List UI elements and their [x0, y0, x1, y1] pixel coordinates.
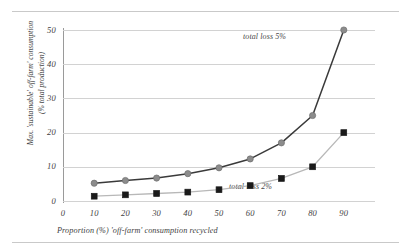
data-point: [341, 27, 347, 33]
data-point: [278, 140, 284, 146]
data-point: [185, 171, 191, 177]
data-point: [122, 177, 128, 183]
data-point: [310, 164, 316, 170]
data-point: [216, 187, 222, 193]
data-point: [279, 176, 285, 182]
series-layer: [0, 0, 411, 251]
data-point: [310, 112, 316, 118]
series-line: [94, 30, 344, 183]
data-point: [247, 183, 253, 189]
data-point: [91, 193, 97, 199]
chart-figure: 01020304050 0102030405060708090 Max. 'su…: [0, 0, 411, 251]
data-point: [154, 175, 160, 181]
data-point: [216, 165, 222, 171]
data-point: [123, 192, 129, 198]
data-point: [91, 180, 97, 186]
data-point: [341, 130, 347, 136]
data-point: [247, 156, 253, 162]
data-point: [185, 189, 191, 195]
series-total-loss-5-: [91, 27, 347, 186]
data-point: [154, 191, 160, 197]
